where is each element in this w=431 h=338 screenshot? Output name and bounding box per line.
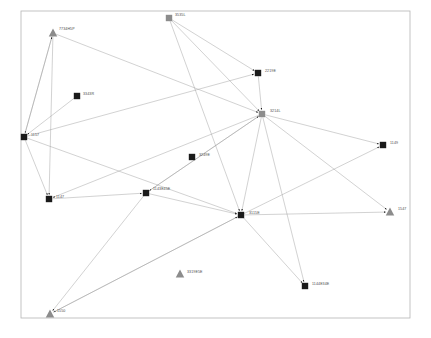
graph-node-1547[interactable] [386,207,394,215]
node-label-1547: 1547 [398,207,406,211]
graph-edge [53,196,144,311]
graph-node-1147[interactable] [46,196,52,202]
graph-edge [242,117,261,211]
graph-edge [53,217,237,313]
nodes-layer [21,15,394,318]
edges-layer [25,20,387,313]
graph-node-3535l[interactable] [166,15,172,21]
graph-edge [27,138,237,213]
graph-node-3343r[interactable] [74,93,80,99]
plot-frame [21,11,410,318]
graph-node-1143e45e[interactable] [143,190,149,196]
graph-node-2219e[interactable] [255,70,261,76]
graph-edge [149,194,237,214]
graph-edge [263,117,304,282]
node-label-7734h5p: 7734H5P [59,27,75,31]
node-label-3319e5e: 3319E5E [187,270,203,274]
node-label-1550: 1550 [57,309,65,313]
node-label-3249e: 3249E [199,153,210,157]
labels-layer: 7734H5P3535L3343R2219E3214L11573249E1149… [31,13,406,313]
node-label-1147: 1147 [56,195,64,199]
graph-edge [265,116,387,209]
node-label-2219e: 2219E [265,69,276,73]
graph-node-1149[interactable] [380,142,386,148]
node-label-3535l: 3535L [175,13,186,17]
graph-node-7734h5p[interactable] [49,28,57,36]
node-label-3115e: 3115E [249,211,260,215]
graph-edge [172,20,255,71]
graph-edge [27,74,254,136]
graph-edge [243,218,302,283]
graph-node-1144e34e[interactable] [302,283,308,289]
graph-edge [25,37,52,134]
graph-edge [170,21,239,211]
node-label-1157: 1157 [31,133,39,137]
graph-node-3249e[interactable] [189,154,195,160]
node-label-3343r: 3343R [83,92,94,96]
graph-edge [25,140,47,195]
graph-edge [53,115,259,197]
graph-edge [49,36,53,194]
node-label-3214l: 3214L [270,109,281,113]
node-label-1149: 1149 [390,141,398,145]
node-label-1143e45e: 1143E45E [153,187,171,191]
graph-edge [258,76,261,109]
graph-edge [244,212,385,215]
network-diagram-canvas: 7734H5P3535L3343R2219E3214L11573249E1149… [0,0,431,338]
graph-edge [244,147,379,214]
node-label-1144e34e: 1144E34E [312,282,330,286]
graph-node-3115e[interactable] [238,212,244,218]
graph-node-3319e5e[interactable] [176,269,184,277]
graph-node-1157[interactable] [21,134,27,140]
graph-svg: 7734H5P3535L3343R2219E3214L11573249E1149… [0,0,431,338]
graph-edge [52,193,141,199]
graph-node-3214l[interactable] [259,111,265,117]
